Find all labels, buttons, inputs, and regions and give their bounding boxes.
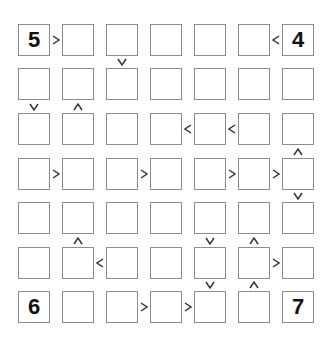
empty-cell[interactable] — [194, 247, 226, 279]
empty-cell[interactable] — [238, 291, 270, 323]
empty-cell[interactable] — [238, 68, 270, 100]
chevron-up-icon — [249, 236, 259, 246]
greater-than-icon — [51, 35, 61, 45]
empty-cell[interactable] — [106, 68, 138, 100]
chevron-down-icon — [293, 191, 303, 201]
empty-cell[interactable] — [106, 291, 138, 323]
empty-cell[interactable] — [194, 113, 226, 145]
empty-cell[interactable] — [106, 158, 138, 190]
chevron-down-icon — [29, 102, 39, 112]
empty-cell[interactable] — [18, 247, 50, 279]
greater-than-icon — [271, 169, 281, 179]
empty-cell[interactable] — [282, 113, 314, 145]
empty-cell[interactable] — [150, 68, 182, 100]
less-than-icon — [183, 124, 193, 134]
empty-cell[interactable] — [62, 68, 94, 100]
empty-cell[interactable] — [18, 202, 50, 234]
chevron-up-icon — [73, 102, 83, 112]
empty-cell[interactable] — [18, 158, 50, 190]
empty-cell[interactable] — [62, 291, 94, 323]
futoshiki-board: 5467 — [0, 0, 336, 352]
empty-cell[interactable] — [106, 202, 138, 234]
chevron-down-icon — [117, 57, 127, 67]
empty-cell[interactable] — [106, 113, 138, 145]
empty-cell[interactable] — [194, 24, 226, 56]
greater-than-icon — [139, 302, 149, 312]
greater-than-icon — [227, 169, 237, 179]
empty-cell[interactable] — [150, 113, 182, 145]
empty-cell[interactable] — [62, 113, 94, 145]
given-cell: 5 — [18, 24, 50, 56]
greater-than-icon — [139, 169, 149, 179]
empty-cell[interactable] — [194, 158, 226, 190]
empty-cell[interactable] — [282, 202, 314, 234]
empty-cell[interactable] — [62, 202, 94, 234]
empty-cell[interactable] — [62, 247, 94, 279]
empty-cell[interactable] — [106, 247, 138, 279]
empty-cell[interactable] — [150, 158, 182, 190]
empty-cell[interactable] — [62, 24, 94, 56]
empty-cell[interactable] — [150, 291, 182, 323]
empty-cell[interactable] — [106, 24, 138, 56]
chevron-down-icon — [205, 236, 215, 246]
empty-cell[interactable] — [62, 158, 94, 190]
empty-cell[interactable] — [150, 202, 182, 234]
empty-cell[interactable] — [238, 247, 270, 279]
less-than-icon — [95, 258, 105, 268]
empty-cell[interactable] — [282, 247, 314, 279]
empty-cell[interactable] — [282, 158, 314, 190]
empty-cell[interactable] — [238, 202, 270, 234]
greater-than-icon — [51, 169, 61, 179]
empty-cell[interactable] — [150, 24, 182, 56]
given-cell: 7 — [282, 291, 314, 323]
chevron-up-icon — [293, 147, 303, 157]
empty-cell[interactable] — [194, 291, 226, 323]
chevron-up-icon — [73, 236, 83, 246]
less-than-icon — [271, 35, 281, 45]
empty-cell[interactable] — [238, 113, 270, 145]
less-than-icon — [227, 124, 237, 134]
chevron-down-icon — [205, 280, 215, 290]
empty-cell[interactable] — [18, 113, 50, 145]
empty-cell[interactable] — [194, 202, 226, 234]
empty-cell[interactable] — [238, 24, 270, 56]
empty-cell[interactable] — [194, 68, 226, 100]
empty-cell[interactable] — [282, 68, 314, 100]
given-cell: 6 — [18, 291, 50, 323]
given-cell: 4 — [282, 24, 314, 56]
empty-cell[interactable] — [18, 68, 50, 100]
empty-cell[interactable] — [150, 247, 182, 279]
greater-than-icon — [271, 258, 281, 268]
chevron-up-icon — [249, 280, 259, 290]
greater-than-icon — [183, 302, 193, 312]
empty-cell[interactable] — [238, 158, 270, 190]
